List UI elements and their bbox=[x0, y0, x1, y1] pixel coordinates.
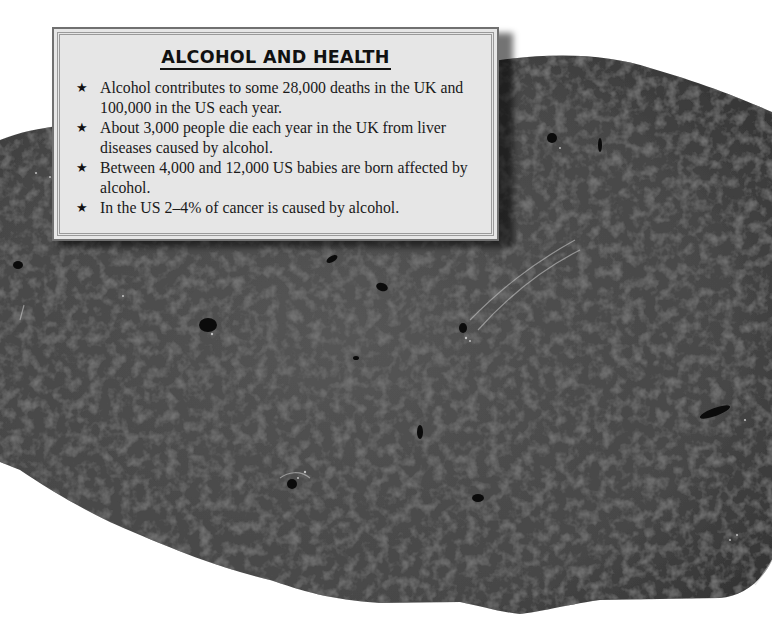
fact-item: ★ About 3,000 people die each year in th… bbox=[76, 118, 485, 158]
fact-text: In the US 2–4% of cancer is caused by al… bbox=[100, 199, 399, 216]
fact-list: ★ Alcohol contributes to some 28,000 dea… bbox=[76, 78, 485, 218]
star-icon: ★ bbox=[76, 118, 88, 138]
book-page: ALCOHOL AND HEALTH ★ Alcohol contributes… bbox=[0, 0, 772, 630]
alcohol-health-info-box: ALCOHOL AND HEALTH ★ Alcohol contributes… bbox=[52, 27, 499, 241]
fact-item: ★ Between 4,000 and 12,000 US babies are… bbox=[76, 158, 485, 198]
fact-text: About 3,000 people die each year in the … bbox=[100, 119, 446, 156]
info-box-title-text: ALCOHOL AND HEALTH bbox=[160, 47, 390, 70]
info-box-title: ALCOHOL AND HEALTH bbox=[54, 47, 497, 70]
star-icon: ★ bbox=[76, 78, 88, 98]
fact-text: Between 4,000 and 12,000 US babies are b… bbox=[100, 159, 468, 196]
fact-item: ★ In the US 2–4% of cancer is caused by … bbox=[76, 198, 485, 218]
fact-item: ★ Alcohol contributes to some 28,000 dea… bbox=[76, 78, 485, 118]
star-icon: ★ bbox=[76, 198, 88, 218]
star-icon: ★ bbox=[76, 158, 88, 178]
fact-text: Alcohol contributes to some 28,000 death… bbox=[100, 79, 463, 116]
